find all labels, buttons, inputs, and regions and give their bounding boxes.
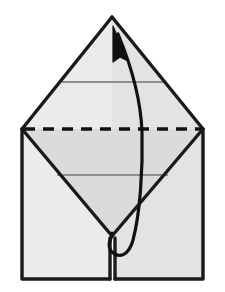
origami-figure: Origami fold diagram Shaded paper model … [0, 0, 225, 292]
origami-diagram: Origami fold diagram Shaded paper model … [0, 0, 225, 292]
